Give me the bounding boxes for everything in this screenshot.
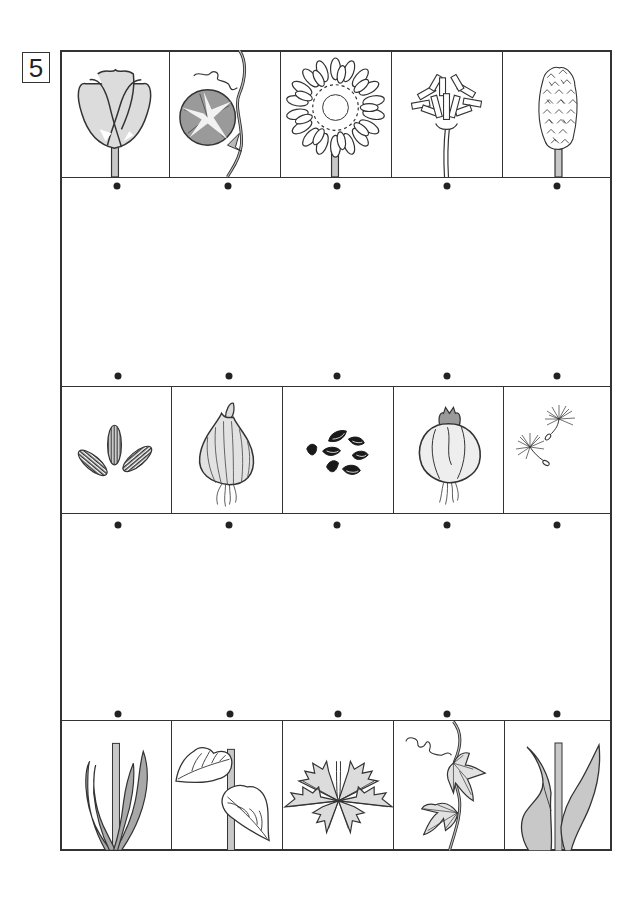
serrated-leaves-icon (172, 721, 282, 851)
sunflower-seeds-icon (60, 387, 171, 513)
broad-leaves-icon (505, 721, 612, 851)
dandelion-seed-fluff-icon (504, 387, 612, 513)
flower-row (60, 50, 612, 178)
cell-morning-glory[interactable] (170, 50, 281, 177)
connection-dot[interactable] (334, 183, 341, 190)
connection-dot[interactable] (444, 373, 451, 380)
connection-dot[interactable] (114, 183, 121, 190)
cell-dandelion-seeds[interactable] (504, 387, 612, 513)
connection-dot[interactable] (444, 522, 451, 529)
matching-area-bottom[interactable] (62, 531, 610, 709)
connection-dot[interactable] (115, 373, 122, 380)
matching-area-top[interactable] (62, 192, 610, 370)
connection-dot[interactable] (334, 522, 341, 529)
connection-dot[interactable] (554, 373, 561, 380)
dandelion-rosette-icon (283, 721, 393, 851)
connection-dot[interactable] (225, 183, 232, 190)
connection-dot[interactable] (444, 711, 451, 718)
vine-leaves-icon (394, 721, 504, 851)
cell-tulip-bulb[interactable] (172, 387, 283, 513)
cell-vine-leaves[interactable] (394, 721, 505, 851)
cell-hyacinth[interactable] (503, 50, 612, 177)
narrow-leaves-icon (60, 721, 171, 851)
cell-tulip[interactable] (60, 50, 170, 177)
dandelion-flower-icon (392, 50, 502, 177)
cell-black-seeds[interactable] (283, 387, 394, 513)
connection-dot[interactable] (444, 183, 451, 190)
connection-dot[interactable] (115, 522, 122, 529)
cell-dandelion-rosette[interactable] (283, 721, 394, 851)
exercise-number-label: 5 (22, 52, 50, 83)
cell-narrow-leaves[interactable] (60, 721, 172, 851)
cell-sunflower-seeds[interactable] (60, 387, 172, 513)
seed-bulb-row (60, 386, 612, 514)
hyacinth-flower-icon (503, 50, 612, 177)
connection-dot[interactable] (226, 373, 233, 380)
sunflower-flower-icon (281, 50, 391, 177)
black-seeds-icon (283, 387, 393, 513)
connection-dot[interactable] (554, 183, 561, 190)
cell-serrated-leaves[interactable] (172, 721, 283, 851)
connection-dot[interactable] (554, 711, 561, 718)
connection-dot[interactable] (335, 711, 342, 718)
hyacinth-bulb-icon (394, 387, 503, 513)
connection-dot[interactable] (115, 711, 122, 718)
cell-dandelion[interactable] (392, 50, 503, 177)
morning-glory-flower-icon (170, 50, 280, 177)
connection-dot[interactable] (227, 711, 234, 718)
leaves-row (60, 720, 612, 851)
tulip-bulb-icon (172, 387, 282, 513)
cell-hyacinth-bulb[interactable] (394, 387, 504, 513)
connection-dot[interactable] (334, 373, 341, 380)
cell-sunflower[interactable] (281, 50, 392, 177)
cell-broad-leaves[interactable] (505, 721, 612, 851)
connection-dot[interactable] (554, 522, 561, 529)
tulip-flower-icon (60, 50, 169, 177)
connection-dot[interactable] (226, 522, 233, 529)
